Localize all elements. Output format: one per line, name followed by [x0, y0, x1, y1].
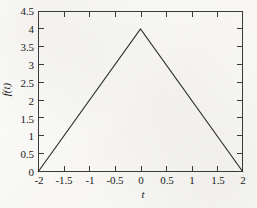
y-tick-label: 0.5 — [21, 149, 34, 160]
y-tick-label: 1 — [29, 131, 34, 142]
x-axis-title: t — [141, 189, 144, 200]
y-tick-label: 2.5 — [21, 78, 34, 89]
x-tick-label: -1 — [86, 175, 95, 186]
y-axis-ticks-left — [38, 12, 44, 172]
y-tick-label: 4.5 — [21, 6, 34, 17]
x-tick-label: 2 — [240, 175, 245, 186]
x-tick-label: 1 — [189, 175, 194, 186]
y-tick-label: 2 — [29, 96, 34, 107]
y-tick-label: 3.5 — [21, 42, 34, 53]
x-axis-ticks-bottom — [39, 166, 243, 172]
x-tick-label: -2 — [35, 175, 44, 186]
x-tick-label: 1.5 — [211, 175, 224, 186]
x-axis-ticks-top — [39, 11, 243, 17]
y-tick-label: 3 — [29, 60, 34, 71]
x-axis-tick-labels: -2 -1.5 -1 -0.5 0 0.5 1 1.5 2 — [0, 175, 257, 189]
y-axis-ticks-right — [237, 12, 243, 172]
x-tick-label: 0 — [138, 175, 143, 186]
figure-plot-triangular-waveform: 4.5 4 3.5 3 2.5 2 1.5 1 0.5 0 — [0, 0, 257, 208]
x-tick-label: 0.5 — [160, 175, 173, 186]
plot-canvas — [38, 11, 243, 172]
x-tick-label: -0.5 — [106, 175, 123, 186]
data-series-line — [38, 29, 243, 172]
x-tick-label: -1.5 — [55, 175, 72, 186]
y-tick-label: 1.5 — [21, 114, 34, 125]
y-tick-label: 4 — [29, 24, 34, 35]
y-axis-title: f(t) — [1, 70, 12, 110]
